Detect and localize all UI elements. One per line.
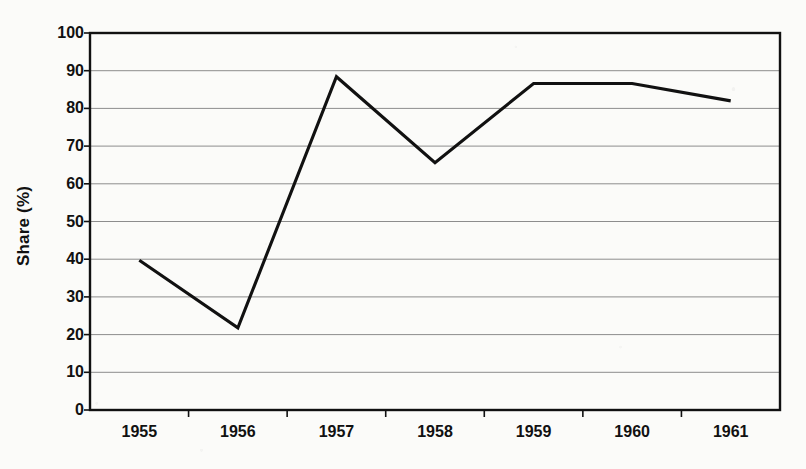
y-tick-label: 40: [40, 251, 84, 267]
y-tick-label: 80: [40, 100, 84, 116]
y-tick-label: 90: [40, 63, 84, 79]
y-tick-label: 100: [40, 25, 84, 41]
y-tick-label: 20: [40, 327, 84, 343]
y-tick-label: 10: [40, 364, 84, 380]
x-tick-label: 1955: [90, 424, 189, 440]
x-tick-label: 1956: [189, 424, 288, 440]
y-tick-label: 50: [40, 214, 84, 230]
x-tick-label: 1961: [681, 424, 780, 440]
x-tick-label: 1958: [386, 424, 485, 440]
chart-page: Share (%) 0102030405060708090100 1955195…: [0, 0, 806, 469]
y-tick-label: 30: [40, 289, 84, 305]
y-tick-label: 0: [40, 402, 84, 418]
x-tick-label: 1957: [287, 424, 386, 440]
line-chart: Share (%) 0102030405060708090100 1955195…: [0, 0, 806, 469]
gridlines: [90, 71, 780, 373]
data-series-line: [139, 77, 730, 328]
y-tick-label: 70: [40, 138, 84, 154]
plot-canvas: [0, 0, 806, 469]
x-tick-label: 1960: [583, 424, 682, 440]
y-axis-title: Share (%): [14, 126, 34, 326]
x-tick-label: 1959: [484, 424, 583, 440]
y-tick-label: 60: [40, 176, 84, 192]
